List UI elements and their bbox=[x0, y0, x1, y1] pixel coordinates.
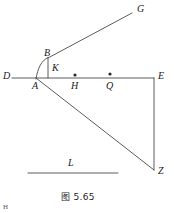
geometry-figure: GBKDAHQEZL 图 5.65 H bbox=[0, 0, 174, 213]
page-corner-mark: H bbox=[3, 203, 8, 211]
point-label-k: K bbox=[52, 63, 59, 73]
curves-group bbox=[36, 58, 48, 80]
point-label-l: L bbox=[68, 158, 74, 168]
point-label-d: D bbox=[3, 71, 10, 81]
dot-Q bbox=[108, 72, 111, 75]
point-label-b: B bbox=[44, 48, 50, 58]
point-label-h: H bbox=[71, 81, 78, 91]
arc-A-B bbox=[36, 58, 48, 80]
point-label-z: Z bbox=[158, 166, 164, 176]
dots-group bbox=[73, 72, 111, 76]
point-label-a: A bbox=[32, 81, 38, 91]
line-A-Z bbox=[36, 78, 154, 170]
point-label-q: Q bbox=[106, 81, 113, 91]
diagram-canvas bbox=[0, 0, 174, 213]
segments-group bbox=[12, 13, 154, 173]
dot-H bbox=[73, 73, 76, 76]
point-label-e: E bbox=[158, 71, 164, 81]
figure-caption: 图 5.65 bbox=[61, 190, 95, 203]
line-B-G bbox=[48, 13, 132, 58]
point-label-g: G bbox=[137, 4, 144, 14]
